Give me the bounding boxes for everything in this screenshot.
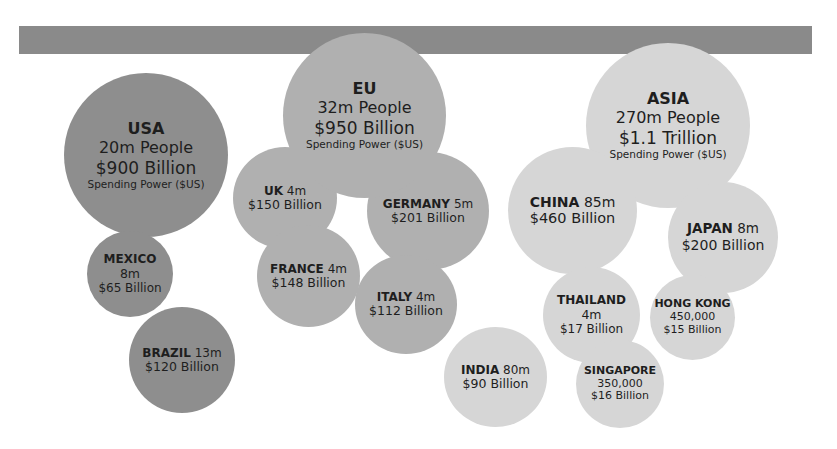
country-spending: $148 Billion bbox=[272, 276, 346, 291]
country-name: INDIA bbox=[461, 363, 499, 377]
bubble-france: FRANCE 4m $148 Billion bbox=[257, 225, 360, 327]
country-spending: $16 Billion bbox=[591, 390, 649, 403]
bubble-eu: EU 32m People $950 Billion Spending Powe… bbox=[283, 33, 446, 198]
country-population: 8m bbox=[120, 267, 140, 282]
country-population: 13m bbox=[195, 346, 222, 360]
country-spending: $17 Billion bbox=[560, 322, 623, 336]
country-population: 4m bbox=[581, 308, 601, 323]
bubble-caption: Spending Power ($US) bbox=[88, 178, 205, 190]
country-name: MEXICO bbox=[104, 252, 157, 266]
bubble-title: ASIA bbox=[647, 90, 689, 109]
country-population: 80m bbox=[503, 363, 530, 377]
country-spending: $460 Billion bbox=[530, 210, 616, 227]
country-population: 8m bbox=[737, 220, 759, 236]
country-population: 85m bbox=[584, 194, 615, 210]
country-spending: $200 Billion bbox=[682, 237, 765, 254]
bubble-india: INDIA 80m $90 Billion bbox=[444, 327, 547, 427]
country-name: SINGAPORE bbox=[584, 364, 656, 377]
bubble-brazil: BRAZIL 13m $120 Billion bbox=[129, 307, 235, 413]
country-name: BRAZIL bbox=[142, 346, 191, 360]
bubble-italy: ITALY 4m $112 Billion bbox=[355, 255, 457, 354]
country-population: 4m bbox=[328, 262, 347, 276]
bubble-spending: $950 Billion bbox=[314, 118, 414, 138]
bubble-caption: Spending Power ($US) bbox=[306, 138, 423, 150]
country-spending: $120 Billion bbox=[145, 360, 219, 375]
country-name: UK bbox=[264, 184, 283, 198]
country-name: FRANCE bbox=[270, 262, 324, 276]
country-spending: $90 Billion bbox=[463, 377, 529, 392]
bubble-people: 270m People bbox=[616, 109, 720, 128]
country-spending: $65 Billion bbox=[98, 281, 161, 295]
country-name: CHINA bbox=[530, 194, 580, 210]
country-spending: $112 Billion bbox=[369, 304, 443, 319]
bubble-spending: $1.1 Trillion bbox=[619, 128, 717, 148]
country-name: THAILAND bbox=[557, 293, 626, 307]
bubble-singapore: SINGAPORE 350,000 $16 Billion bbox=[576, 340, 664, 428]
country-spending: $15 Billion bbox=[664, 324, 722, 337]
bubble-mexico: MEXICO 8m $65 Billion bbox=[87, 231, 173, 317]
bubble-usa: USA 20m People $900 Billion Spending Pow… bbox=[64, 73, 228, 237]
country-population: 4m bbox=[287, 184, 306, 198]
bubble-caption: Spending Power ($US) bbox=[610, 148, 727, 160]
country-population: 4m bbox=[416, 290, 435, 304]
country-name: HONG KONG bbox=[654, 297, 730, 310]
country-name: GERMANY bbox=[383, 197, 450, 211]
bubble-spending: $900 Billion bbox=[96, 158, 196, 178]
country-name: ITALY bbox=[377, 290, 412, 304]
bubble-title: USA bbox=[128, 120, 165, 139]
bubble-hong-kong: HONG KONG 450,000 $15 Billion bbox=[650, 275, 735, 360]
bubble-people: 20m People bbox=[99, 139, 193, 158]
country-spending: $201 Billion bbox=[391, 211, 465, 226]
bubble-china: CHINA 85m $460 Billion bbox=[508, 147, 637, 274]
country-population: 5m bbox=[454, 197, 473, 211]
bubble-people: 32m People bbox=[317, 99, 411, 118]
country-spending: $150 Billion bbox=[248, 198, 322, 213]
bubble-title: EU bbox=[353, 80, 377, 99]
country-name: JAPAN bbox=[687, 220, 733, 236]
